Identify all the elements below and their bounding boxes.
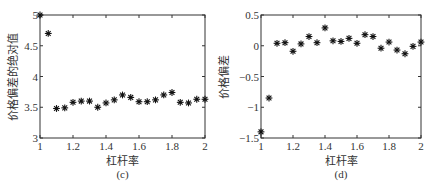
chart-panel-d: 11.21.41.61.82−1.5−1−0.500.5杠杆率价格偏差(d) (216, 0, 432, 190)
y-axis-title: 价格偏差 (217, 55, 231, 99)
data-series (37, 12, 209, 112)
x-tick-label: 2 (418, 140, 424, 152)
x-tick-label: 1.2 (286, 140, 300, 152)
data-point-star-icon (346, 35, 353, 42)
y-tick-label: −1 (247, 101, 259, 113)
x-tick-label: 1.6 (132, 140, 146, 152)
data-point-star-icon (330, 37, 337, 44)
data-point-star-icon (314, 39, 321, 46)
data-point-star-icon (282, 39, 289, 46)
y-axis-title: 价格偏差的绝对值 (6, 33, 20, 121)
x-tick-label: 1.4 (318, 140, 332, 152)
x-tick-label: 1.6 (350, 140, 364, 152)
data-point-star-icon (378, 45, 385, 52)
plot-frame (40, 15, 205, 138)
data-point-star-icon (111, 96, 118, 103)
data-point-star-icon (103, 100, 110, 107)
data-point-star-icon (202, 96, 209, 103)
data-point-star-icon (136, 98, 143, 105)
data-point-star-icon (45, 30, 52, 37)
data-point-star-icon (70, 99, 77, 106)
data-point-star-icon (177, 99, 184, 106)
scatter-plot-d: 11.21.41.61.82−1.5−1−0.500.5杠杆率价格偏差(d) (216, 0, 432, 190)
data-point-star-icon (169, 89, 176, 96)
data-point-star-icon (193, 96, 200, 103)
y-tick-label: −0.5 (239, 71, 259, 83)
data-point-star-icon (78, 98, 85, 105)
x-axis-title: 杠杆率 (325, 154, 358, 168)
y-tick-label: 3 (33, 132, 39, 144)
x-axis-title: 杠杆率 (106, 154, 139, 168)
x-tick-label: 1 (258, 140, 264, 152)
data-point-star-icon (322, 25, 329, 32)
data-point-star-icon (185, 100, 192, 107)
data-point-star-icon (290, 48, 297, 55)
data-point-star-icon (94, 104, 101, 111)
data-point-star-icon (362, 31, 369, 38)
data-point-star-icon (386, 39, 393, 46)
x-tick-label: 1.8 (165, 140, 179, 152)
x-tick-label: 1.2 (66, 140, 80, 152)
y-tick-label: 3.5 (24, 101, 38, 113)
data-point-star-icon (160, 92, 167, 99)
x-tick-label: 1.8 (382, 140, 396, 152)
data-point-star-icon (152, 96, 159, 103)
data-point-star-icon (306, 33, 313, 40)
figure-caption-clipped (110, 180, 340, 184)
chart-panel-c: 11.21.41.61.8233.544.55杠杆率价格偏差的绝对值(c) (0, 0, 216, 190)
data-point-star-icon (394, 47, 401, 54)
data-point-star-icon (61, 104, 68, 111)
data-point-star-icon (274, 40, 281, 47)
data-point-star-icon (144, 98, 151, 105)
x-tick-label: 2 (202, 140, 208, 152)
data-point-star-icon (354, 40, 361, 47)
y-tick-label: −1.5 (239, 132, 259, 144)
data-series (258, 25, 425, 136)
scatter-plot-c: 11.21.41.61.8233.544.55杠杆率价格偏差的绝对值(c) (0, 0, 216, 190)
y-tick-label: 0.5 (245, 9, 259, 21)
plot-frame (261, 15, 421, 138)
data-point-star-icon (258, 128, 265, 135)
data-point-star-icon (370, 33, 377, 40)
data-point-star-icon (410, 43, 417, 50)
data-point-star-icon (266, 95, 273, 102)
data-point-star-icon (86, 98, 93, 105)
data-point-star-icon (338, 38, 345, 45)
data-point-star-icon (418, 39, 425, 46)
data-point-star-icon (127, 94, 134, 101)
data-point-star-icon (298, 41, 305, 48)
y-tick-label: 4 (33, 71, 39, 83)
x-tick-label: 1.4 (99, 140, 113, 152)
data-point-star-icon (119, 92, 126, 99)
data-point-star-icon (53, 105, 60, 112)
y-tick-label: 0 (254, 40, 260, 52)
data-point-star-icon (37, 12, 44, 19)
y-tick-label: 4.5 (24, 40, 38, 52)
x-tick-label: 1 (37, 140, 43, 152)
data-point-star-icon (402, 50, 409, 57)
